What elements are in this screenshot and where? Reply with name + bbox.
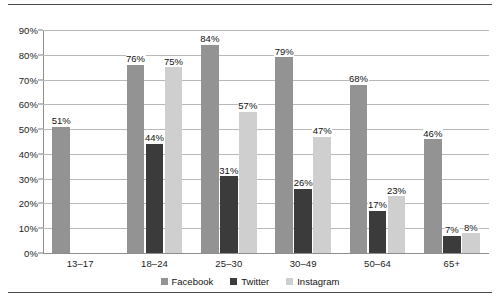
bar-fill xyxy=(146,144,164,253)
y-axis-tick-label: 50% xyxy=(19,124,38,135)
bar-group: 68%17%23% xyxy=(350,30,406,253)
bar-twitter-30-49: 26% xyxy=(294,189,312,253)
x-axis-tick-label: 65+ xyxy=(444,258,460,269)
bar-facebook-30-49: 79% xyxy=(275,57,293,253)
y-axis-tick-label: 90% xyxy=(19,25,38,36)
bar-value-label: 23% xyxy=(386,186,406,196)
bar-value-label: 31% xyxy=(219,166,239,176)
bar-instagram-30-49: 47% xyxy=(313,137,331,253)
bar-instagram-50-64: 23% xyxy=(388,196,406,253)
bar-facebook-65+: 46% xyxy=(424,139,442,253)
bar-value-label: 75% xyxy=(163,57,183,67)
bar-value-label: 51% xyxy=(51,116,71,126)
bar-fill xyxy=(369,211,387,253)
bar-value-label: 76% xyxy=(125,54,145,64)
gridline xyxy=(43,253,489,254)
y-axis-tick-label: 30% xyxy=(19,173,38,184)
legend-label: Twitter xyxy=(241,276,269,287)
legend-swatch-icon xyxy=(286,278,293,285)
figure-bottom-rule xyxy=(8,292,492,293)
plot-area: 51%76%44%75%84%31%57%79%26%47%68%17%23%4… xyxy=(43,30,489,253)
y-axis-tick-label: 10% xyxy=(19,223,38,234)
bar-group: 46%7%8% xyxy=(424,30,480,253)
y-axis-tick-label: 70% xyxy=(19,74,38,85)
bar-fill xyxy=(239,112,257,253)
gridline xyxy=(43,104,489,105)
x-axis-tick-label: 13–17 xyxy=(67,258,94,269)
bar-fill xyxy=(443,236,461,253)
legend-item-facebook[interactable]: Facebook xyxy=(161,276,214,287)
bar-instagram-18-24: 75% xyxy=(165,67,183,253)
bar-facebook-50-64: 68% xyxy=(350,85,368,253)
y-axis-tick-label: 60% xyxy=(19,99,38,110)
bar-value-label: 84% xyxy=(200,34,220,44)
bar-fill xyxy=(165,67,183,253)
bar-fill xyxy=(275,57,293,253)
bar-value-label: 17% xyxy=(367,200,387,210)
legend-label: Facebook xyxy=(172,276,214,287)
bar-twitter-50-64: 17% xyxy=(369,211,387,253)
bar-group: 79%26%47% xyxy=(275,30,331,253)
bar-value-label: 79% xyxy=(274,47,294,57)
bar-value-label: 7% xyxy=(444,225,459,235)
x-axis-tick-label: 18–24 xyxy=(141,258,168,269)
bar-twitter-25-30: 31% xyxy=(220,176,238,253)
bar-twitter-18-24: 44% xyxy=(146,144,164,253)
bar-value-label: 44% xyxy=(144,133,164,143)
bar-fill xyxy=(462,233,480,253)
gridline xyxy=(43,179,489,180)
bar-value-label: 26% xyxy=(293,178,313,188)
bar-chart-figure: 0%10%20%30%40%50%60%70%80%90% 51%76%44%7… xyxy=(0,0,500,299)
legend-swatch-icon xyxy=(161,278,168,285)
x-axis-tick-label: 50–64 xyxy=(364,258,391,269)
legend-item-twitter[interactable]: Twitter xyxy=(230,276,269,287)
bar-facebook-25-30: 84% xyxy=(201,45,219,253)
legend-item-instagram[interactable]: Instagram xyxy=(286,276,339,287)
bar-fill xyxy=(424,139,442,253)
chart-legend: FacebookTwitterInstagram xyxy=(0,276,500,287)
bar-fill xyxy=(350,85,368,253)
bar-value-label: 46% xyxy=(423,129,443,139)
gridline xyxy=(43,154,489,155)
bar-instagram-65+: 8% xyxy=(462,233,480,253)
bar-twitter-65+: 7% xyxy=(443,236,461,253)
gridline xyxy=(43,55,489,56)
y-axis-tick-label: 20% xyxy=(19,198,38,209)
bar-value-label: 47% xyxy=(312,126,332,136)
figure-top-rule xyxy=(8,4,492,5)
bar-facebook-13-17: 51% xyxy=(52,127,70,253)
legend-label: Instagram xyxy=(297,276,339,287)
legend-swatch-icon xyxy=(230,278,237,285)
bar-fill xyxy=(294,189,312,253)
bar-fill xyxy=(201,45,219,253)
bar-fill xyxy=(220,176,238,253)
gridline xyxy=(43,30,489,31)
y-axis-tick-label: 40% xyxy=(19,148,38,159)
bar-group: 84%31%57% xyxy=(201,30,257,253)
bar-instagram-25-30: 57% xyxy=(239,112,257,253)
y-axis-tick-label: 0% xyxy=(24,248,38,259)
bar-value-label: 68% xyxy=(348,74,368,84)
bar-fill xyxy=(127,65,145,253)
bar-value-label: 8% xyxy=(463,223,478,233)
bar-fill xyxy=(388,196,406,253)
bar-fill xyxy=(313,137,331,253)
y-axis-tick-label: 80% xyxy=(19,49,38,60)
bar-group: 51% xyxy=(52,30,108,253)
bar-fill xyxy=(52,127,70,253)
gridline xyxy=(43,203,489,204)
bar-value-label: 57% xyxy=(238,101,258,111)
bar-facebook-18-24: 76% xyxy=(127,65,145,253)
x-axis-tick-label: 30–49 xyxy=(290,258,317,269)
gridline xyxy=(43,80,489,81)
gridline xyxy=(43,228,489,229)
bar-group: 76%44%75% xyxy=(127,30,183,253)
x-axis-tick-label: 25–30 xyxy=(215,258,242,269)
